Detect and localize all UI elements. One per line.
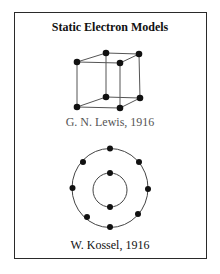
inner-shell [93,173,127,207]
electron-dot [107,204,113,210]
electron-dot [70,185,76,191]
electron-dot [117,105,124,112]
electron-dot [136,51,143,58]
lewis-cube-diagram [77,53,140,108]
diagram-canvas [0,0,220,274]
electron-dot [135,211,141,217]
electron-dot [84,214,90,220]
electron-dot [103,94,110,101]
electron-dot [137,95,144,102]
electron-dot [74,104,81,111]
kossel-caption: W. Kossel, 1916 [0,238,220,253]
electron-dot [103,50,110,57]
lewis-caption: G. N. Lewis, 1916 [0,115,220,130]
electron-dot [107,170,113,176]
electron-dot [136,159,142,165]
electron-dot [107,224,113,230]
electron-dot [74,59,81,66]
electron-dot [107,146,113,152]
electron-dot [145,186,151,192]
electron-dot [80,159,86,165]
kossel-electrons [70,146,152,231]
electron-dot [117,60,124,67]
